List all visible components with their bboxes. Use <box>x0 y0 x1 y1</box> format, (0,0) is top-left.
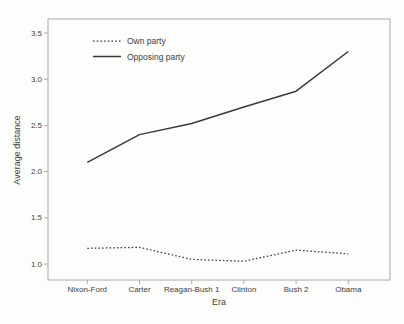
legend-label: Own party <box>127 36 166 46</box>
y-tick-label: 1.0 <box>31 260 43 269</box>
x-tick-label: Nixon-Ford <box>68 285 108 294</box>
series-line-own-party <box>87 247 348 261</box>
y-axis-title: Average distance <box>12 115 22 184</box>
y-tick-label: 3.0 <box>31 75 43 84</box>
x-axis-title: Era <box>212 297 226 307</box>
chart-svg: 1.01.52.02.53.03.5Nixon-FordCarterReagan… <box>0 0 404 324</box>
y-tick-label: 2.0 <box>31 167 43 176</box>
y-tick-label: 2.5 <box>31 121 43 130</box>
legend-label: Opposing party <box>127 52 185 62</box>
y-tick-label: 3.5 <box>31 29 43 38</box>
series-line-opposing-party <box>87 51 348 162</box>
x-tick-label: Bush 2 <box>284 285 309 294</box>
x-tick-label: Clinton <box>231 285 256 294</box>
x-tick-label: Obama <box>335 285 362 294</box>
y-tick-label: 1.5 <box>31 213 43 222</box>
x-tick-label: Carter <box>128 285 151 294</box>
x-tick-label: Reagan-Bush 1 <box>164 285 220 294</box>
chart-figure: 1.01.52.02.53.03.5Nixon-FordCarterReagan… <box>0 0 404 324</box>
